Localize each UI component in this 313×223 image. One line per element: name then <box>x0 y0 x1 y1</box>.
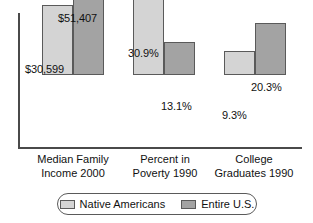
bar-native-americans-college-graduates <box>224 51 255 75</box>
legend-label-native-americans: Native Americans <box>80 198 166 210</box>
value-label-native-americans-college-graduates: 9.3% <box>222 109 247 121</box>
category-label-line-1: College <box>198 152 310 166</box>
value-label-native-americans-percent-in-poverty: 30.9% <box>128 47 159 59</box>
legend-swatch-icon-native-americans <box>60 200 75 209</box>
chart-legend: Native Americans Entire U.S. <box>57 193 257 215</box>
bar-entire-us-percent-in-poverty <box>164 42 195 75</box>
value-label-entire-us-percent-in-poverty: 13.1% <box>161 100 192 112</box>
bar-entire-us-college-graduates <box>255 23 286 75</box>
plot-area: $30,599 $51,407 30.9% 13.1% 9.3% 20.3% <box>0 0 313 149</box>
category-label-line-2: Graduates 1990 <box>198 166 310 180</box>
value-label-native-americans-median-family-income: $30,599 <box>25 63 64 75</box>
legend-item-entire-us: Entire U.S. <box>181 198 254 210</box>
bar-native-americans-percent-in-poverty <box>133 0 164 75</box>
legend-item-native-americans: Native Americans <box>60 198 166 210</box>
value-label-entire-us-median-family-income: $51,407 <box>58 12 97 24</box>
value-label-entire-us-college-graduates: 20.3% <box>251 81 282 93</box>
bar-chart: $30,599 $51,407 30.9% 13.1% 9.3% 20.3% M… <box>0 0 313 223</box>
legend-swatch-icon-entire-us <box>181 200 196 209</box>
legend-label-entire-us: Entire U.S. <box>201 198 254 210</box>
category-label-college-graduates: College Graduates 1990 <box>198 152 310 180</box>
